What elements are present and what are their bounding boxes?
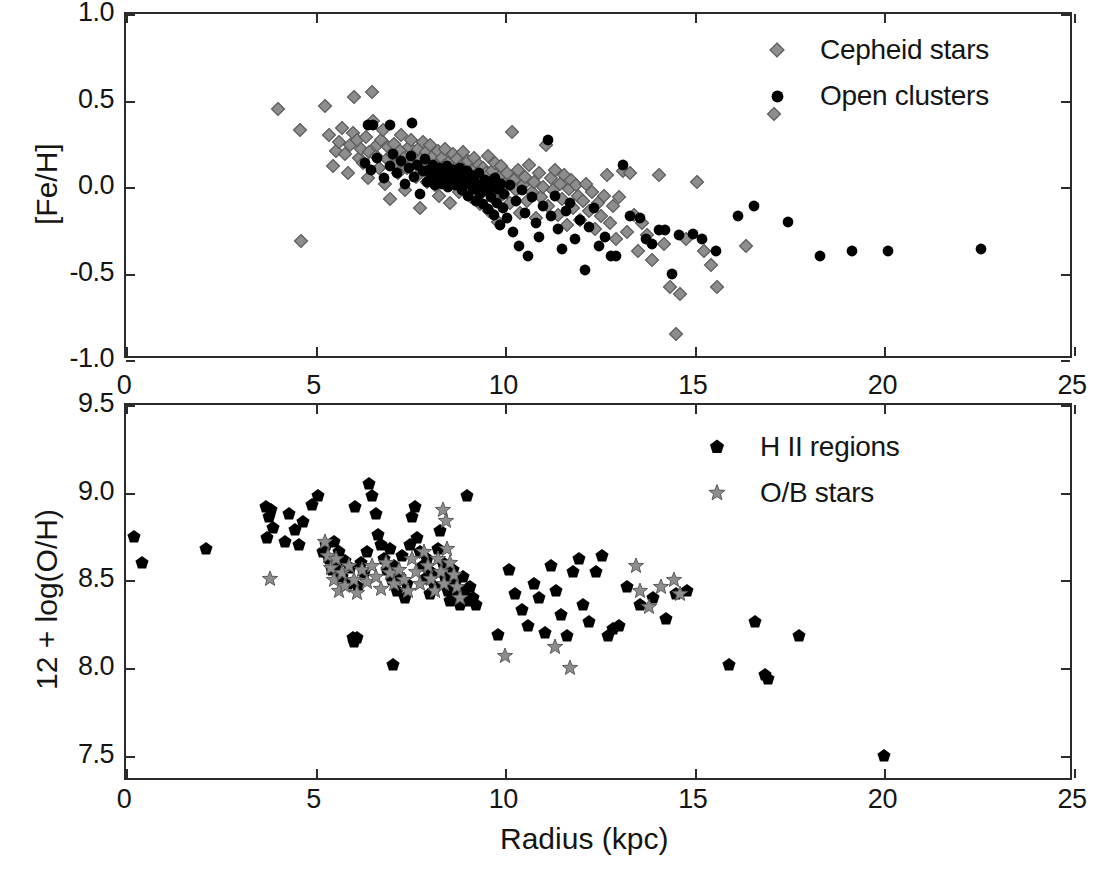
legend-oh: H II regions O/B stars — [700, 432, 900, 508]
pentagon-black-marker — [291, 538, 306, 553]
y-axis-title-oh: 12 + log(O/H) — [30, 509, 64, 690]
circle-black-marker — [569, 233, 581, 245]
circle-black-marker — [365, 164, 377, 176]
circle-black-marker — [696, 233, 708, 245]
circle-black-marker — [846, 245, 858, 257]
pentagon-black-marker — [543, 559, 558, 574]
x-tick — [316, 347, 318, 356]
x-tick — [1074, 769, 1076, 778]
y-tick — [126, 580, 135, 582]
y-axis-title-fe-h: [Fe/H] — [30, 143, 64, 225]
x-tick — [126, 14, 128, 23]
circle-black-marker — [545, 210, 557, 222]
pentagon-black-marker — [520, 618, 535, 633]
legend-item: O/B stars — [700, 478, 900, 508]
x-tick-label: 25 — [1057, 786, 1086, 813]
pentagon-black-marker — [611, 618, 626, 633]
circle-black-marker — [510, 195, 522, 207]
pentagon-black-marker — [490, 627, 505, 642]
circle-black-marker — [522, 250, 534, 262]
x-tick — [316, 14, 318, 23]
circle-black-marker — [501, 212, 513, 224]
circle-black-marker — [814, 250, 826, 262]
circle-black-marker — [760, 90, 794, 103]
x-tick — [126, 405, 128, 414]
diamond-gray-marker — [599, 167, 614, 182]
legend-label: Cepheid stars — [820, 34, 989, 66]
pentagon-black-marker — [572, 552, 587, 567]
circle-black-marker — [617, 159, 629, 171]
x-tick-label: 25 — [1057, 372, 1086, 399]
star-gray-marker — [546, 638, 563, 655]
y-tick-label: 7.5 — [6, 740, 114, 767]
x-tick — [316, 405, 318, 414]
circle-black-marker — [530, 217, 542, 229]
diamond-gray-marker — [645, 252, 660, 267]
pentagon-black-marker — [760, 671, 775, 686]
y-tick — [126, 668, 135, 670]
pentagon-black-marker — [263, 503, 278, 518]
pentagon-black-marker — [310, 489, 325, 504]
panel-oh — [124, 403, 1072, 780]
y-tick — [126, 360, 135, 362]
circle-black-marker — [710, 245, 722, 257]
pentagon-black-marker — [507, 587, 522, 602]
diamond-gray-marker — [505, 124, 520, 139]
figure-root: -1.0-0.50.00.51.0 0510152025 [Fe/H] Ceph… — [0, 0, 1105, 880]
circle-black-marker — [507, 226, 519, 238]
legend-item: Open clusters — [760, 81, 989, 111]
diamond-gray-marker — [738, 238, 753, 253]
circle-black-marker — [367, 119, 379, 131]
y-tick — [1061, 274, 1070, 276]
circle-black-marker — [414, 188, 426, 200]
pentagon-black-marker — [365, 489, 380, 504]
pentagon-black-marker — [515, 603, 530, 618]
pentagon-black-marker — [348, 499, 363, 514]
diamond-gray-marker — [364, 84, 379, 99]
x-tick-label: 20 — [868, 372, 897, 399]
diamond-gray-marker — [292, 122, 307, 137]
diamond-gray-marker — [657, 237, 672, 252]
x-tick — [695, 769, 697, 778]
pentagon-black-marker — [282, 506, 297, 521]
x-tick-label: 10 — [489, 372, 518, 399]
x-tick — [505, 769, 507, 778]
diamond-gray-marker — [673, 287, 688, 302]
star-gray-marker — [561, 660, 578, 677]
y-tick — [126, 101, 135, 103]
y-tick-label: -0.5 — [6, 258, 114, 285]
pentagon-black-marker — [134, 555, 149, 570]
pentagon-black-marker — [549, 583, 564, 598]
pentagon-black-marker — [526, 576, 541, 591]
plot-area-oh — [126, 405, 1070, 778]
x-tick-label: 15 — [678, 786, 707, 813]
pentagon-black-marker — [386, 657, 401, 672]
star-gray-marker — [438, 512, 455, 529]
pentagon-black-marker — [659, 611, 674, 626]
pentagon-black-marker — [460, 489, 475, 504]
y-tick — [1061, 101, 1070, 103]
y-tick — [126, 187, 135, 189]
circle-black-marker — [599, 231, 611, 243]
y-tick — [1061, 405, 1070, 407]
y-tick — [126, 756, 135, 758]
x-tick — [505, 405, 507, 414]
circle-black-marker — [552, 223, 564, 235]
legend-item: H II regions — [700, 432, 900, 462]
diamond-gray-marker — [294, 233, 309, 248]
circle-black-marker — [549, 190, 561, 202]
x-tick — [884, 347, 886, 356]
diamond-gray-marker — [602, 216, 617, 231]
circle-black-marker — [673, 229, 685, 241]
star-gray-marker — [631, 582, 648, 599]
pentagon-black-marker — [581, 615, 596, 630]
y-tick-label: 9.0 — [6, 477, 114, 504]
y-tick — [1061, 187, 1070, 189]
diamond-gray-marker — [318, 98, 333, 113]
pentagon-black-marker — [554, 608, 569, 623]
x-tick — [505, 14, 507, 23]
x-tick-label: 0 — [117, 372, 132, 399]
pentagon-black-marker — [532, 590, 547, 605]
star-gray-marker — [497, 647, 514, 664]
circle-black-marker — [646, 238, 658, 250]
